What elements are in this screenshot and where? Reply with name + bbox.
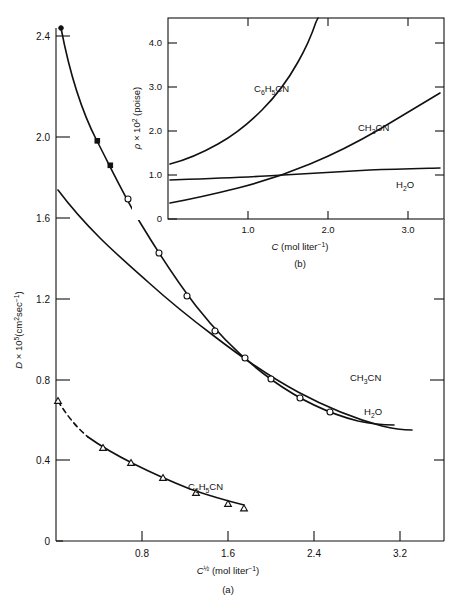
panel-a-y-ticks — [56, 36, 70, 541]
panel-a-ytick-04: 0.4 — [36, 455, 50, 466]
panel-b-xtick-10: 1.0 — [241, 224, 254, 235]
panel-a-ylabel-open: (cm — [13, 321, 24, 337]
figure-svg: 0 0.4 0.8 1.2 1.6 2.0 2.4 0.8 1.6 2.4 3.… — [0, 0, 460, 606]
panel-b-label-h2o-b: O — [407, 179, 414, 190]
panel-b-ylabel: ρ × 102 (poise) — [131, 87, 143, 150]
panel-b-label-c6h5cn-c: CN — [275, 83, 289, 94]
panel-a-curve-c6h5cn — [88, 437, 244, 505]
panel-a-xlabel-rest: (mol liter — [209, 565, 248, 576]
panel-b-ytick-10: 1.0 — [149, 169, 162, 180]
panel-a-right-ticks — [430, 299, 444, 460]
panel-a-ylabel: D × 105(cm2sec−1) — [13, 291, 25, 368]
panel-a-xlabel: C½ (mol liter−1) — [197, 565, 260, 577]
panel-b-xtick-20: 2.0 — [321, 224, 334, 235]
panel-b-ytick-20: 2.0 — [149, 125, 162, 136]
panel-a-xtick-24: 2.4 — [307, 548, 321, 559]
panel-a-xtick-16: 1.6 — [221, 548, 235, 559]
panel-b-xtick-30: 3.0 — [401, 224, 414, 235]
panel-a-xtick-32: 3.2 — [393, 548, 407, 559]
panel-a-label-c6h5cn-c: CN — [209, 481, 223, 492]
panel-b-ylabel-rest: (poise) — [131, 87, 142, 119]
panel-a-ytick-08: 0.8 — [36, 375, 50, 386]
panel-a-label-h2o-b: O — [375, 406, 382, 417]
panel-b-ytick-40: 4.0 — [149, 37, 162, 48]
panel-b-group: 0 1.0 2.0 3.0 4.0 1.0 2.0 3.0 C (mol lit… — [131, 8, 445, 269]
panel-a-markers-ch3cn-filled — [59, 26, 113, 168]
panel-b-xlabel-rest: (mol liter — [278, 241, 317, 252]
panel-b-tag: (b) — [294, 258, 306, 269]
panel-b-label-ch3cn-b: CN — [376, 122, 390, 133]
panel-a-ytick-0: 0 — [44, 536, 50, 547]
panel-a-ytick-12: 1.2 — [36, 294, 50, 305]
panel-b-label-ch3cn-a: CH — [358, 122, 372, 133]
panel-a-ytick-16: 1.6 — [36, 213, 50, 224]
panel-a-label-h2o: H2O — [364, 406, 382, 419]
panel-a-curve-c6h5cn-dashed — [58, 401, 88, 437]
panel-a-label-c6h5cn: C6H5CN — [188, 481, 223, 494]
panel-a-tag: (a) — [222, 584, 234, 595]
panel-a-ytick-20: 2.0 — [36, 132, 50, 143]
panel-a-ylabel-mid: sec — [13, 302, 24, 317]
panel-a-markers-c6h5cn — [55, 398, 248, 511]
panel-b-ytick-0: 0 — [157, 213, 162, 224]
panel-a-label-ch3cn-b: CN — [368, 372, 382, 383]
figure-container: 0 0.4 0.8 1.2 1.6 2.0 2.4 0.8 1.6 2.4 3.… — [0, 0, 460, 606]
panel-a-label-ch3cn: CH3CN — [350, 372, 381, 385]
panel-a-markers-ch3cn-open — [125, 196, 333, 415]
panel-a-x-ticks — [142, 531, 400, 541]
panel-b-xlabel: C (mol liter−1) — [272, 241, 329, 253]
panel-b-ylabel-times: × 10 — [131, 122, 142, 143]
panel-a-curve-h2o — [58, 190, 412, 430]
panel-a-ylabel-times: × 10 — [13, 340, 24, 361]
panel-a-xlabel-close: ) — [256, 565, 259, 576]
panel-a-ylabel-close: ) — [13, 291, 24, 294]
panel-b-xlabel-close: ) — [325, 241, 328, 252]
panel-a-ytick-24: 2.4 — [36, 31, 50, 42]
panel-a-xtick-08: 0.8 — [135, 548, 149, 559]
panel-b-ytick-30: 3.0 — [149, 81, 162, 92]
panel-a-label-ch3cn-a: CH — [350, 372, 364, 383]
